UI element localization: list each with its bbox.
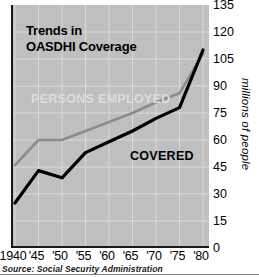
bottom-divider bbox=[0, 274, 259, 275]
chart-title: Trends in OASDHI Coverage bbox=[26, 23, 136, 55]
y-tick-label: 90 bbox=[213, 80, 237, 92]
series-label-covered: COVERED bbox=[130, 149, 194, 163]
y-tick-label: 120 bbox=[213, 26, 237, 38]
y-axis-tick-labels: 1351201059075604530150 bbox=[213, 0, 239, 277]
y-tick-label: 45 bbox=[213, 161, 237, 173]
y-tick-label: 60 bbox=[213, 134, 237, 146]
x-tick-label: 1940 bbox=[0, 249, 27, 263]
y-tick-label: 30 bbox=[213, 188, 237, 200]
x-tick-label: '65 bbox=[122, 249, 139, 263]
y-tick-label: 15 bbox=[213, 215, 237, 227]
x-tick-label: '55 bbox=[75, 249, 92, 263]
x-tick-label: '45 bbox=[28, 249, 45, 263]
y-tick-label: 0 bbox=[213, 242, 237, 254]
x-tick-label: '80 bbox=[193, 249, 210, 263]
x-tick-label: '70 bbox=[146, 249, 163, 263]
line-covered bbox=[15, 50, 203, 203]
y-axis-title: millions of people bbox=[240, 78, 252, 198]
x-axis-tick-labels: 1940'45'50'55'60'65'70'75'80 bbox=[0, 249, 215, 265]
chart-figure: PERSONS EMPLOYED COVERED Trends in OASDH… bbox=[0, 0, 259, 277]
x-tick-label: '60 bbox=[99, 249, 116, 263]
x-tick-label: '75 bbox=[169, 249, 186, 263]
series-label-persons-employed: PERSONS EMPLOYED bbox=[31, 92, 171, 106]
source-note: Source: Social Security Administration bbox=[2, 264, 163, 274]
y-tick-label: 75 bbox=[213, 107, 237, 119]
y-tick-label: 135 bbox=[213, 0, 237, 11]
x-tick-label: '50 bbox=[52, 249, 69, 263]
y-tick-label: 105 bbox=[213, 53, 237, 65]
